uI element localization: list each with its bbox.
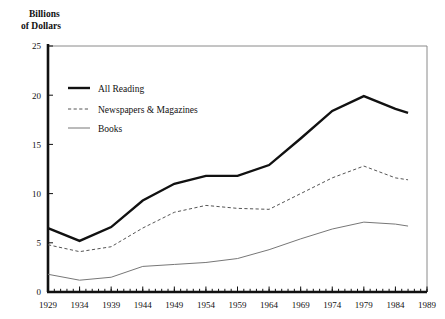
y-axis-title-line2: of Dollars xyxy=(21,21,61,31)
x-tick-label: 1939 xyxy=(102,300,121,310)
x-tick-label: 1984 xyxy=(386,300,405,310)
reading-expenditure-chart: Billions of Dollars 0510152025 192919341… xyxy=(0,0,445,319)
chart-canvas: Billions of Dollars 0510152025 192919341… xyxy=(0,0,445,319)
y-tick-label: 25 xyxy=(32,41,42,51)
chart-legend: All ReadingNewspapers & MagazinesBooks xyxy=(68,84,198,134)
y-tick-label: 20 xyxy=(32,91,42,101)
y-tick-label: 5 xyxy=(37,238,42,248)
y-axis-title-line1: Billions xyxy=(29,9,60,19)
legend-label-0: All Reading xyxy=(98,84,144,94)
y-tick-label: 15 xyxy=(32,140,42,150)
y-tick-label: 0 xyxy=(37,287,42,297)
y-axis-tick-labels: 0510152025 xyxy=(32,41,42,297)
x-tick-label: 1944 xyxy=(134,300,153,310)
x-tick-label: 1934 xyxy=(71,300,90,310)
x-tick-label: 1974 xyxy=(323,300,342,310)
x-tick-label: 1929 xyxy=(39,300,58,310)
x-tick-label: 1954 xyxy=(197,300,216,310)
x-tick-label: 1959 xyxy=(229,300,248,310)
series-line-0 xyxy=(48,96,408,241)
legend-label-2: Books xyxy=(98,124,123,134)
legend-label-1: Newspapers & Magazines xyxy=(98,105,198,115)
x-tick-label: 1964 xyxy=(260,300,279,310)
x-tick-label: 1969 xyxy=(292,300,311,310)
series-line-1 xyxy=(48,166,408,252)
x-tick-label: 1989 xyxy=(418,300,437,310)
x-axis-tick-labels: 1929193419391944194919541959196419691974… xyxy=(39,300,437,310)
x-tick-label: 1979 xyxy=(355,300,374,310)
x-tick-label: 1949 xyxy=(165,300,184,310)
y-tick-label: 10 xyxy=(32,189,42,199)
